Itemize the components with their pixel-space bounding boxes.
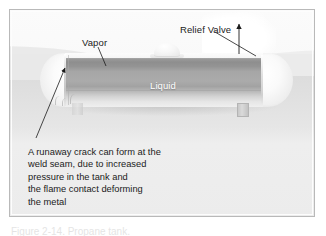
caption-line: weld seam, due to increased <box>28 158 218 170</box>
vapor-label: Vapor <box>82 37 107 48</box>
liquid-label: Liquid <box>150 80 176 91</box>
caption-line: pressure in the tank and <box>28 171 218 183</box>
caption-line: A runaway crack can form at the <box>28 146 218 158</box>
crack-caption-text: A runaway crack can form at the weld sea… <box>28 146 218 208</box>
crack-arrow-icon <box>36 68 65 138</box>
caption-line: the metal <box>28 196 218 208</box>
caption-line: the flame contact deforming <box>28 183 218 195</box>
relief-valve-leader-line <box>215 32 256 56</box>
vapor-leader-line <box>98 47 106 66</box>
figure-undertext: Figure 2-14. Propane tank. <box>11 226 251 236</box>
relief-valve-label: Relief Valve <box>180 24 231 35</box>
figure-panel: Vapor Relief Valve Liquid A runaway crac… <box>9 9 315 217</box>
